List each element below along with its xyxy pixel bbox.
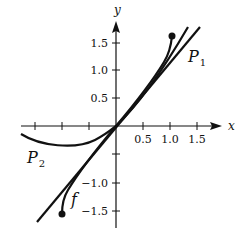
plot-canvas: 0.5 1.0 1.5 x 1.5 1.0 0.5 −1.0 −1.5 y <box>0 0 247 232</box>
x-tick-label: 1.0 <box>161 133 179 146</box>
p1-label: P1 <box>187 47 206 68</box>
f-endpoint-lower-dot <box>59 211 66 218</box>
x-tick-label: 1.5 <box>188 133 206 146</box>
p2-label: P2 <box>26 148 45 169</box>
y-tick-label: 1.5 <box>91 37 109 50</box>
y-axis: 1.5 1.0 0.5 −1.0 −1.5 y <box>81 3 121 228</box>
y-axis-label: y <box>113 3 121 17</box>
y-tick-label: −1.0 <box>81 177 108 190</box>
x-tick-label: 0.5 <box>134 133 152 146</box>
y-tick-label: −1.5 <box>81 205 108 218</box>
y-tick-label: 1.0 <box>91 64 109 77</box>
y-tick-label: 0.5 <box>91 92 109 105</box>
x-axis-label: x <box>228 119 235 133</box>
f-endpoint-upper-dot <box>169 33 176 40</box>
x-axis: 0.5 1.0 1.5 x <box>21 119 235 146</box>
function-approximation-diagram: 0.5 1.0 1.5 x 1.5 1.0 0.5 −1.0 −1.5 y <box>0 0 247 232</box>
f-curve <box>62 36 172 214</box>
f-label: f <box>70 190 80 209</box>
